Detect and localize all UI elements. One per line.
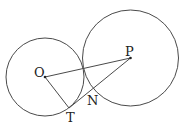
label-P: P	[125, 44, 134, 59]
label-T: T	[66, 110, 75, 125]
label-O: O	[34, 65, 45, 80]
segment-TP	[69, 58, 131, 108]
segment-OT	[45, 77, 69, 108]
label-N: N	[87, 93, 98, 108]
geometry-diagram: O P T N	[0, 0, 190, 128]
segment-OP	[45, 58, 131, 77]
